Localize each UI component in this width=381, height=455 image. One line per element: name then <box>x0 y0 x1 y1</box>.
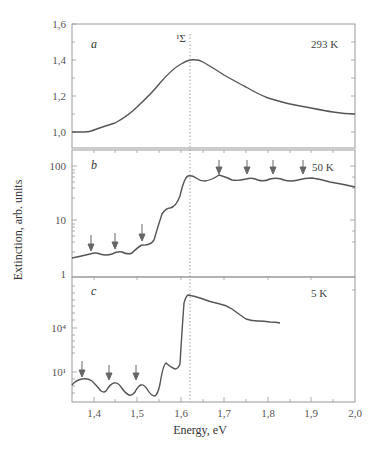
panel-c-arrows <box>79 361 139 380</box>
panel-letter-b: b <box>91 158 97 172</box>
arrow-down-icon <box>139 234 145 241</box>
figure: Extinction, arb. units 1,6 1,4 1,2 1,0 a… <box>0 0 381 455</box>
temperature-label-c: 5 K <box>311 287 327 299</box>
y-axis-title: Extinction, arb. units <box>11 179 25 280</box>
panel-b: 100 10 1 b 50 K <box>50 150 356 280</box>
temperature-label-a: 293 K <box>311 38 338 50</box>
arrow-down-icon <box>106 373 112 380</box>
panel-b-arrows <box>88 160 306 251</box>
arrow-down-icon <box>133 373 139 380</box>
x-axis-title: Energy, eV <box>173 423 227 437</box>
y-tick-label: 10⁴ <box>51 322 66 334</box>
arrow-down-icon <box>216 167 222 174</box>
panel-a: 1,6 1,4 1,2 1,0 a 293 K ¹Σ <box>52 18 355 148</box>
x-axis-tick-labels: 1,4 1,5 1,6 1,7 1,8 1,9 2,0 <box>87 407 362 419</box>
x-tick-label: 2,0 <box>348 407 362 419</box>
y-tick-label: 10 <box>55 214 67 226</box>
panel-letter-c: c <box>91 284 97 298</box>
y-tick-label: 1 <box>61 268 67 280</box>
sigma-annotation: ¹Σ <box>176 32 186 44</box>
y-tick-label: 1,4 <box>52 54 66 66</box>
x-tick-label: 1,8 <box>261 407 275 419</box>
x-tick-label: 1,7 <box>217 407 231 419</box>
y-tick-label: 1,2 <box>52 90 66 102</box>
arrow-down-icon <box>244 167 250 174</box>
curve-293K <box>72 60 355 132</box>
x-tick-label: 1,4 <box>87 407 101 419</box>
arrow-down-icon <box>270 167 276 174</box>
panel-c: 10⁴ 10¹ c 5 K <box>51 277 355 402</box>
x-tick-label: 1,6 <box>174 407 188 419</box>
y-tick-label: 1,6 <box>52 18 66 30</box>
y-tick-label: 10¹ <box>52 366 66 378</box>
panel-letter-a: a <box>91 37 97 51</box>
x-tick-label: 1,9 <box>304 407 318 419</box>
arrow-down-icon <box>300 167 306 174</box>
arrow-down-icon <box>112 242 118 249</box>
arrow-down-icon <box>79 370 85 377</box>
arrow-down-icon <box>88 244 94 251</box>
x-tick-label: 1,5 <box>130 407 144 419</box>
y-tick-label: 1,0 <box>52 126 66 138</box>
y-tick-label: 100 <box>50 160 67 172</box>
curve-5K <box>72 295 280 396</box>
temperature-label-b: 50 K <box>312 161 334 173</box>
